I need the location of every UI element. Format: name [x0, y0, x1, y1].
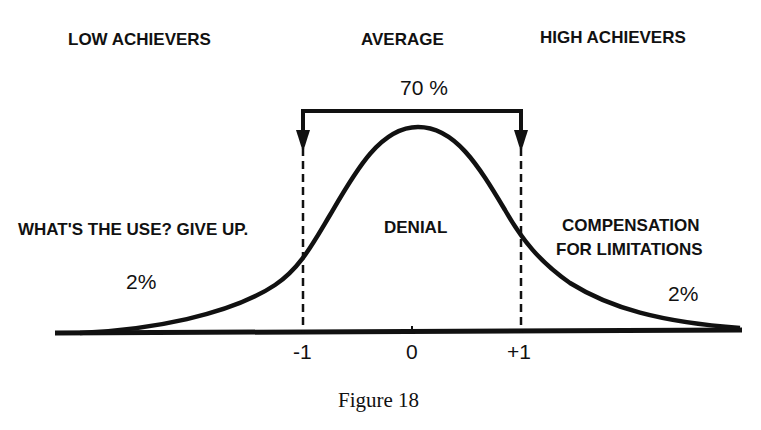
region-left-label: WHAT'S THE USE? GIVE UP.	[18, 220, 248, 240]
header-high-achievers: HIGH ACHIEVERS	[540, 28, 686, 48]
header-low-achievers: LOW ACHIEVERS	[68, 30, 211, 50]
figure-caption: Figure 18	[338, 388, 419, 413]
baseline-axis	[55, 330, 742, 333]
region-center-label: DENIAL	[384, 218, 447, 238]
right-tail-percent: 2%	[668, 282, 698, 306]
bracket-70-percent	[303, 111, 521, 135]
tick-label-zero: 0	[406, 340, 418, 364]
tick-label-plus-one: +1	[507, 340, 531, 364]
arrow-down-right-icon	[514, 130, 528, 152]
bell-curve-diagram	[0, 0, 761, 430]
arrow-down-left-icon	[296, 130, 310, 152]
left-tail-percent: 2%	[126, 270, 156, 294]
region-right-label-line1: COMPENSATION	[562, 216, 700, 236]
region-right-label-line2: FOR LIMITATIONS	[556, 240, 703, 260]
tick-label-minus-one: -1	[293, 340, 312, 364]
bracket-label: 70 %	[400, 76, 448, 100]
header-average: AVERAGE	[361, 30, 444, 50]
